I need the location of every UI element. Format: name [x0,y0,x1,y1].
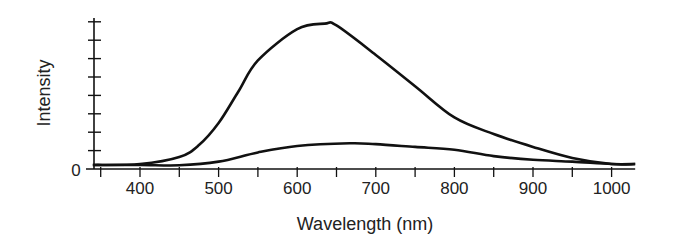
tick-labels: 40050060070080090010000 [71,161,630,198]
x-tick-label: 400 [126,179,154,198]
x-tick-label: 900 [519,179,547,198]
x-tick-label: 500 [204,179,232,198]
x-tick-label: 800 [440,179,468,198]
curves [93,22,635,165]
emission-spectrum-chart: 40050060070080090010000 Wavelength (nm) … [0,0,676,245]
x-tick-label: 1000 [593,179,631,198]
x-tick-label: 700 [362,179,390,198]
x-axis-title: Wavelength (nm) [297,214,433,234]
y-tick-label-zero: 0 [71,161,80,180]
y-axis-title: Intensity [34,59,54,126]
x-tick-label: 600 [283,179,311,198]
